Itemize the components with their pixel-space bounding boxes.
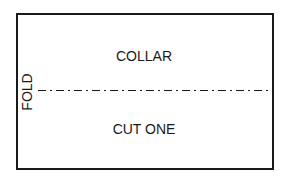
fold-label: FOLD (20, 73, 34, 110)
piece-name-label: COLLAR (116, 49, 172, 63)
cut-instruction-label: CUT ONE (113, 122, 176, 136)
fold-line (38, 89, 272, 92)
